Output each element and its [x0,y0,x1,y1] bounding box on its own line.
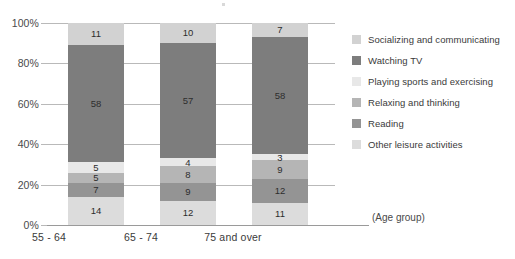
legend-item-label: Reading [368,118,404,129]
bar-segment: 8 [160,166,216,182]
legend-item-3[interactable]: Playing sports and exercising [352,71,515,92]
bar-2: 129845710 [160,23,216,225]
plot-area: 100%80%60%40%20%0% 147555811129845710111… [47,23,335,225]
bar-segment: 10 [160,23,216,43]
bar-segment: 12 [252,179,308,203]
bar-segment-value: 9 [277,165,282,175]
bar-segment-value: 11 [275,209,285,219]
bar-segment-value: 5 [93,173,98,183]
bar-segment-value: 3 [277,153,282,163]
x-axis-caption: (Age group) [372,212,425,223]
x-axis-line [47,225,335,226]
x-axis-label-2: 75 and over [193,231,273,243]
bar-segment: 14 [68,197,124,225]
legend-item-1[interactable]: Socializing and communicating [352,29,515,50]
legend-item-label: Relaxing and thinking [368,97,460,108]
legend-item-4[interactable]: Relaxing and thinking [352,92,515,113]
bar-segment-value: 5 [93,163,98,173]
legend-item-label: Socializing and communicating [368,34,500,45]
bar-segment: 57 [160,43,216,158]
bar-segment-value: 12 [275,186,286,196]
legend-swatch-reading [352,119,361,128]
bar-1: 147555811 [68,23,124,225]
bar-segment: 11 [252,203,308,225]
y-axis-label-0: 0% [24,219,39,231]
image-artifact-speck [222,3,225,6]
legend-swatch-relaxing [352,98,361,107]
bar-segment-value: 7 [93,185,98,195]
bar-segment: 4 [160,158,216,166]
bar-segment-value: 9 [185,187,190,197]
bar-segment-value: 12 [183,208,194,218]
bar-segment-value: 8 [185,170,190,180]
bar-segment-value: 57 [183,96,194,106]
x-axis-label-1: 65 - 74 [101,231,181,243]
y-axis-label-20: 20% [18,179,39,191]
legend-item-label: Watching TV [368,55,422,66]
bar-segment: 3 [252,154,308,160]
bar-segment: 12 [160,201,216,225]
y-axis-label-60: 60% [18,98,39,110]
legend-item-label: Playing sports and exercising [368,76,493,87]
y-axis-label-80: 80% [18,57,39,69]
bar-segment: 7 [68,183,124,197]
legend-item-label: Other leisure activities [368,139,463,150]
legend-swatch-socializing [352,35,361,44]
bar-segment-value: 10 [183,28,194,38]
legend-swatch-watching-tv [352,56,361,65]
bar-segment-value: 4 [185,158,190,168]
bars-group: 147555811129845710111293587 [47,23,335,225]
bar-segment: 9 [252,160,308,178]
bar-3: 111293587 [252,23,308,225]
bar-segment-value: 58 [275,91,286,101]
bar-segment-value: 11 [91,29,101,39]
legend: Socializing and communicatingWatching TV… [352,29,515,155]
legend-item-5[interactable]: Reading [352,113,515,134]
legend-item-2[interactable]: Watching TV [352,50,515,71]
bar-segment-value: 7 [277,25,282,35]
legend-swatch-other [352,140,361,149]
legend-swatch-playing-sports [352,77,361,86]
bar-segment: 5 [68,162,124,172]
x-axis-label-0: 55 - 64 [9,231,89,243]
chart-root: 100%80%60%40%20%0% 147555811129845710111… [0,0,515,259]
bar-segment: 58 [252,37,308,154]
bar-segment-value: 14 [91,206,102,216]
bar-segment-value: 58 [91,99,102,109]
bar-segment: 11 [68,23,124,45]
bar-segment: 9 [160,183,216,201]
bar-segment: 7 [252,23,308,37]
legend-item-6[interactable]: Other leisure activities [352,134,515,155]
bar-segment: 5 [68,173,124,183]
bar-segment: 58 [68,45,124,162]
y-axis-label-40: 40% [18,138,39,150]
y-axis-label-100: 100% [12,17,39,29]
x-axis-line-extension [335,225,369,226]
